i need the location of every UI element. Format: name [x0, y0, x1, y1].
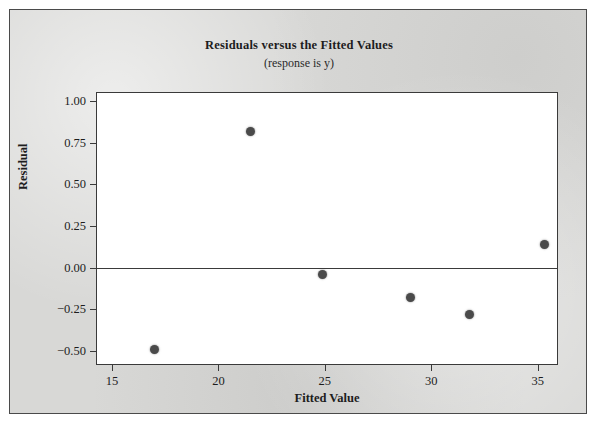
y-tick	[90, 268, 97, 269]
y-tick	[90, 226, 97, 227]
y-tick	[90, 184, 97, 185]
data-point	[540, 240, 549, 249]
x-tick-label: 25	[319, 374, 332, 389]
x-tick-label: 20	[212, 374, 225, 389]
data-point	[246, 127, 255, 136]
figure-panel: Residuals versus the Fitted Values (resp…	[9, 9, 587, 414]
y-tick-label: 0.75	[64, 135, 86, 150]
y-tick-label: 0.00	[64, 260, 86, 275]
y-tick-label: −0.25	[57, 302, 86, 317]
plot-inner: 1520253035 1.000.750.500.250.00−0.25−0.5…	[97, 93, 557, 364]
x-tick-label: 30	[425, 374, 438, 389]
y-tick	[90, 309, 97, 310]
y-axis-label: Residual	[16, 143, 31, 190]
x-tick	[218, 364, 219, 371]
zero-reference-line	[97, 268, 557, 269]
x-tick	[325, 364, 326, 371]
y-tick	[90, 351, 97, 352]
chart-subtitle: (response is y)	[10, 56, 588, 71]
y-tick-label: 0.25	[64, 219, 86, 234]
x-tick-label: 15	[106, 374, 119, 389]
y-tick-label: 0.50	[64, 177, 86, 192]
y-tick	[90, 101, 97, 102]
data-point	[150, 345, 159, 354]
data-point	[465, 310, 474, 319]
y-tick	[90, 143, 97, 144]
y-tick-label: −0.50	[57, 343, 86, 358]
x-axis-label: Fitted Value	[96, 391, 558, 406]
data-point	[318, 270, 327, 279]
x-tick	[112, 364, 113, 371]
chart-title: Residuals versus the Fitted Values	[10, 38, 588, 53]
x-tick	[431, 364, 432, 371]
y-tick-label: 1.00	[64, 94, 86, 109]
x-tick-label: 35	[532, 374, 545, 389]
plot-area: 1520253035 1.000.750.500.250.00−0.25−0.5…	[96, 92, 558, 365]
residual-plot-figure: Residuals versus the Fitted Values (resp…	[0, 0, 598, 425]
data-point	[406, 293, 415, 302]
x-tick	[538, 364, 539, 371]
